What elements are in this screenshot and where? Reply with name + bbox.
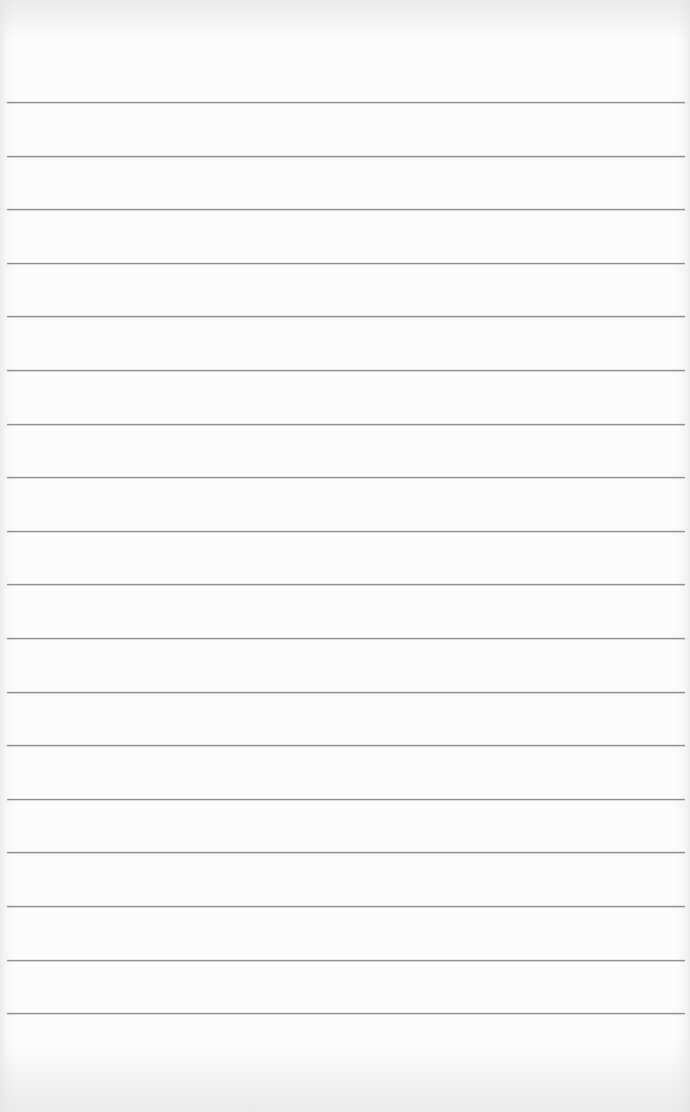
ruled-line <box>7 906 685 907</box>
ruled-line <box>7 745 685 746</box>
ruled-line <box>7 584 685 585</box>
ruled-line <box>7 156 685 157</box>
ruled-line <box>7 370 685 371</box>
ruled-line <box>7 960 685 961</box>
ruled-line <box>7 263 685 264</box>
ruled-line <box>7 638 685 639</box>
ruled-line <box>7 316 685 317</box>
ruled-line <box>7 799 685 800</box>
paper-texture-top <box>0 0 690 40</box>
ruled-line <box>7 852 685 853</box>
ruled-line <box>7 477 685 478</box>
ruled-line <box>7 531 685 532</box>
ruled-line <box>7 692 685 693</box>
ruled-line <box>7 424 685 425</box>
ruled-line <box>7 1013 685 1014</box>
ruled-line <box>7 209 685 210</box>
ruled-line <box>7 102 685 103</box>
paper-texture-bottom <box>0 1042 690 1112</box>
lined-paper-sheet <box>0 0 690 1112</box>
